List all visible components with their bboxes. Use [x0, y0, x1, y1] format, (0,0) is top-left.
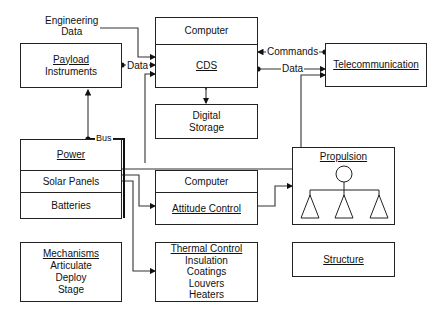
cds-box[interactable]: Computer CDS — [155, 17, 258, 88]
solar-panels-row: Solar Panels — [21, 170, 121, 192]
engineering-label-line1: Engineering — [45, 15, 98, 26]
attitude-title: Attitude Control — [156, 192, 257, 224]
mechanisms-item: Stage — [58, 284, 84, 296]
digital-storage-box[interactable]: Digital Storage — [155, 104, 258, 139]
thermal-item: Coatings — [187, 266, 226, 278]
power-box[interactable]: Power Solar Panels Batteries — [20, 139, 122, 219]
payload-instruments-box[interactable]: Payload Instruments — [20, 43, 122, 88]
cds-title: CDS — [156, 44, 257, 87]
payload-subtitle: Instruments — [45, 66, 97, 78]
commands-label: Commands — [266, 46, 319, 57]
structure-box[interactable]: Structure — [292, 242, 395, 277]
mechanisms-title: Mechanisms — [43, 248, 99, 260]
thermal-title: Thermal Control — [171, 243, 243, 255]
thermal-item: Louvers — [189, 278, 225, 290]
batteries-row: Batteries — [21, 192, 121, 218]
thermal-control-box[interactable]: Thermal Control Insulation Coatings Louv… — [155, 242, 258, 302]
power-title: Power — [21, 140, 121, 170]
attitude-control-box[interactable]: Computer Attitude Control — [155, 170, 258, 225]
bus-label: Bus — [95, 133, 113, 144]
structure-title: Structure — [293, 243, 394, 276]
storage-line2: Storage — [189, 122, 224, 134]
telecommunication-box[interactable]: Telecommunication — [325, 43, 427, 87]
engineering-label-line2: Data — [61, 26, 82, 37]
propulsion-tank-thruster-icon — [293, 148, 396, 226]
mechanisms-item: Articulate — [50, 260, 92, 272]
telecom-title: Telecommunication — [326, 44, 426, 86]
cds-computer-header: Computer — [156, 18, 257, 44]
attitude-computer-header: Computer — [156, 171, 257, 192]
thermal-item: Heaters — [189, 289, 224, 301]
payload-data-label: Data — [126, 60, 149, 71]
payload-title: Payload — [53, 54, 89, 66]
thermal-item: Insulation — [185, 255, 228, 267]
mechanisms-item: Deploy — [55, 272, 86, 284]
propulsion-box[interactable]: Propulsion — [292, 147, 395, 225]
mechanisms-box[interactable]: Mechanisms Articulate Deploy Stage — [20, 242, 122, 302]
storage-line1: Digital — [193, 110, 221, 122]
cds-data-out-label: Data — [281, 63, 304, 74]
engineering-data-label: Engineering Data — [44, 15, 99, 37]
